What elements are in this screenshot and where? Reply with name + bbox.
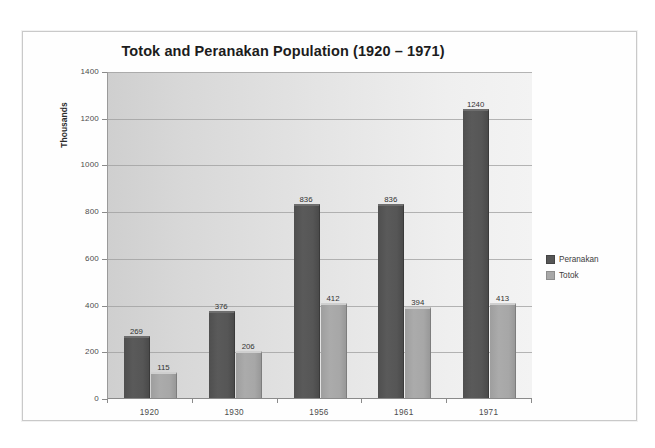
- bar-value-label: 206: [236, 342, 261, 351]
- y-axis-label: 0: [59, 394, 99, 403]
- y-axis-label: 1200: [59, 114, 99, 123]
- legend-item-totok[interactable]: Totok: [546, 267, 632, 283]
- bar-totok-1920: 115: [151, 372, 177, 399]
- chart-page: Totok and Peranakan Population (1920 – 1…: [0, 0, 655, 448]
- x-axis-tick: [361, 399, 362, 403]
- x-axis-label: 1930: [204, 408, 264, 417]
- bar-peranakan-1930: 376: [209, 311, 235, 399]
- legend-label: Peranakan: [559, 255, 599, 264]
- bar-totok-1930: 206: [236, 351, 262, 399]
- x-axis-tick: [446, 399, 447, 403]
- plot-area: 2691153762068364128363941240413: [107, 72, 532, 399]
- gridline: [108, 72, 532, 73]
- y-axis-label: 400: [59, 301, 99, 310]
- y-axis-label: 1000: [59, 160, 99, 169]
- bar-totok-1956: 412: [321, 303, 347, 399]
- bar-value-label: 376: [209, 302, 234, 311]
- bar-totok-1961: 394: [405, 307, 431, 399]
- x-axis-tick: [277, 399, 278, 403]
- legend-label: Totok: [559, 271, 579, 280]
- bar-value-label: 115: [151, 363, 176, 372]
- x-axis-label: 1956: [289, 408, 349, 417]
- x-axis-tick: [192, 399, 193, 403]
- y-axis-label: 800: [59, 207, 99, 216]
- bar-peranakan-1961: 836: [378, 204, 404, 399]
- legend-item-peranakan[interactable]: Peranakan: [546, 251, 632, 267]
- y-axis-label: 600: [59, 254, 99, 263]
- x-axis-label: 1971: [459, 408, 519, 417]
- legend-swatch-icon: [546, 255, 555, 264]
- bar-value-label: 836: [294, 195, 319, 204]
- y-axis-title: Thousands: [59, 80, 69, 170]
- x-axis-line: [108, 398, 532, 399]
- legend-swatch-icon: [546, 271, 555, 280]
- bar-peranakan-1920: 269: [124, 336, 150, 399]
- bar-value-label: 413: [490, 294, 515, 303]
- bar-value-label: 412: [321, 294, 346, 303]
- x-axis-tick: [531, 399, 532, 403]
- x-axis-label: 1920: [119, 408, 179, 417]
- x-axis-label: 1961: [374, 408, 434, 417]
- bar-peranakan-1971: 1240: [463, 109, 489, 399]
- bar-value-label: 394: [405, 298, 430, 307]
- legend: Peranakan Totok: [546, 251, 632, 283]
- bar-totok-1971: 413: [490, 303, 516, 399]
- x-axis-tick: [107, 399, 108, 403]
- chart-frame: Totok and Peranakan Population (1920 – 1…: [22, 31, 637, 421]
- bar-value-label: 836: [378, 195, 403, 204]
- bar-value-label: 269: [124, 327, 149, 336]
- bar-value-label: 1240: [463, 100, 488, 109]
- y-axis-label: 200: [59, 347, 99, 356]
- chart-title: Totok and Peranakan Population (1920 – 1…: [23, 43, 543, 59]
- bar-peranakan-1956: 836: [294, 204, 320, 399]
- y-axis-label: 1400: [59, 67, 99, 76]
